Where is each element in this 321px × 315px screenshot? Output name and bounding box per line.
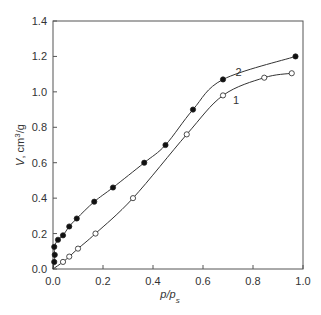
- data-point: [289, 71, 294, 76]
- x-tick-label: 0.0: [45, 275, 60, 287]
- data-point: [52, 259, 57, 264]
- data-series: [52, 54, 298, 269]
- series-line-1: [53, 73, 292, 269]
- data-point: [67, 224, 72, 229]
- data-point: [262, 75, 267, 80]
- data-point: [67, 254, 72, 259]
- data-point: [92, 199, 97, 204]
- y-tick-label: 0.6: [32, 157, 47, 169]
- series-line-2: [53, 56, 296, 269]
- y-tick-label: 0.0: [32, 263, 47, 275]
- data-point: [190, 107, 195, 112]
- data-point: [293, 54, 298, 59]
- data-point: [163, 142, 168, 147]
- y-tick-label: 0.2: [32, 228, 47, 240]
- y-tick-label: 1.2: [32, 50, 47, 62]
- data-point: [60, 259, 65, 264]
- data-point: [93, 231, 98, 236]
- x-axis: 0.00.20.40.60.81.0: [45, 265, 310, 287]
- curve-label-1: 1: [233, 94, 239, 106]
- y-axis-label: V, cm3/g: [13, 124, 27, 166]
- data-point: [220, 77, 225, 82]
- y-tick-label: 0.8: [32, 121, 47, 133]
- data-point: [75, 246, 80, 251]
- data-point: [142, 160, 147, 165]
- x-tick-label: 0.6: [195, 275, 210, 287]
- y-tick-label: 1.4: [32, 15, 47, 27]
- data-point: [74, 216, 79, 221]
- curve-label-2: 2: [236, 66, 242, 78]
- data-point: [184, 132, 189, 137]
- y-tick-label: 0.4: [32, 192, 47, 204]
- x-tick-label: 0.8: [245, 275, 260, 287]
- data-point: [220, 93, 225, 98]
- data-point: [55, 237, 60, 242]
- data-point: [52, 252, 57, 257]
- data-point: [60, 233, 65, 238]
- x-tick-label: 0.4: [145, 275, 160, 287]
- data-point: [130, 196, 135, 201]
- data-point: [110, 185, 115, 190]
- y-tick-label: 1.0: [32, 86, 47, 98]
- isotherm-chart: 0.00.20.40.60.81.01.21.4 0.00.20.40.60.8…: [0, 0, 321, 315]
- x-tick-label: 1.0: [295, 275, 310, 287]
- x-tick-label: 0.2: [95, 275, 110, 287]
- x-axis-label: p/ps: [159, 288, 179, 305]
- data-point: [52, 244, 57, 249]
